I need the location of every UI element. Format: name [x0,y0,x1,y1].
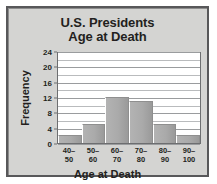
chart-figure: U.S. Presidents Age at Death Frequency 0… [0,0,217,184]
bar-slot [58,53,82,143]
y-tick-label: 8 [48,109,52,118]
x-tick-label-lower: 60– [105,146,129,155]
x-axis-title-text: Age at Death [74,168,141,180]
x-tick-label: 40–50 [57,146,81,164]
y-axis-tick-labels: 04812162024 [32,49,54,145]
y-axis-title-text: Frequency [19,70,31,126]
chart-title-line-1: U.S. Presidents [8,16,207,30]
x-tick-label-upper: 90 [153,155,177,164]
y-tick-label: 24 [43,48,52,57]
bar [153,124,177,143]
x-tick-label-lower: 90– [177,146,201,155]
gridline [58,144,200,145]
bar-slot [176,53,200,143]
chart-title: U.S. Presidents Age at Death [8,16,207,44]
bar-slot [129,53,153,143]
bar [58,135,82,143]
x-tick-label-lower: 70– [129,146,153,155]
x-tick-label: 50–60 [81,146,105,164]
bar [129,101,153,143]
y-tick-label: 20 [43,63,52,72]
bar [82,124,106,143]
bar [176,135,200,143]
y-tick-label: 16 [43,78,52,87]
x-tick-label-upper: 70 [105,155,129,164]
bar-slot [153,53,177,143]
x-tick-label-upper: 100 [177,155,201,164]
plot-area [57,52,201,144]
x-tick-label: 60–70 [105,146,129,164]
chart-panel: U.S. Presidents Age at Death Frequency 0… [6,6,209,177]
x-tick-label-upper: 60 [81,155,105,164]
bar-slot [82,53,106,143]
x-tick-label: 80–90 [153,146,177,164]
x-tick-label: 70–80 [129,146,153,164]
y-tick-label: 0 [48,140,52,149]
x-tick-label-lower: 80– [153,146,177,155]
bar [105,97,129,143]
x-tick-label-upper: 50 [57,155,81,164]
y-tick-label: 12 [43,94,52,103]
x-axis-title: Age at Death [8,168,207,180]
y-axis-title: Frequency [18,52,32,144]
chart-title-line-2: Age at Death [8,30,207,44]
bar-slot [105,53,129,143]
x-tick-label: 90–100 [177,146,201,164]
x-tick-label-lower: 40– [57,146,81,155]
x-tick-label-upper: 80 [129,155,153,164]
x-axis-tick-labels: 40–5050–6060–7070–8080–9090–100 [57,146,201,164]
bar-series [58,53,200,143]
y-tick-label: 4 [48,124,52,133]
x-tick-label-lower: 50– [81,146,105,155]
